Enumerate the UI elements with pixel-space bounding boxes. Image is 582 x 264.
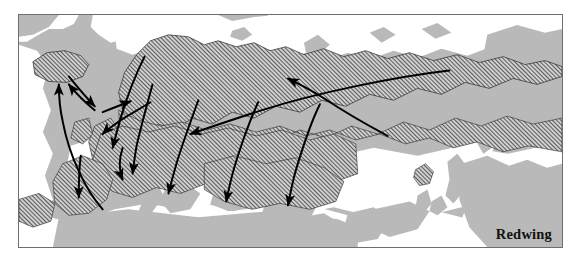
figure-root: Redwing (0, 0, 582, 264)
species-label: Redwing (496, 227, 552, 242)
map-frame: Redwing (18, 14, 563, 248)
map-canvas (19, 15, 562, 247)
